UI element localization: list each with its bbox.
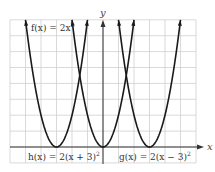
h-label-text: h(x) = 2(x + 3) [28,152,96,162]
f-label: f(x) = 2x2 [31,21,75,33]
y-axis-label: y [99,7,106,18]
x-axis-arrow-icon [197,145,204,150]
g-label-text: g(x) = 2(x − 3) [119,152,187,162]
h-label: h(x) = 2(x + 3)2 [28,150,100,162]
parabola-graph: x y f(x) = 2x2 h(x) = 2(x + 3)2 g(x) = 2… [0,0,215,172]
x-axis-label: x [207,141,213,152]
h-label-exponent: 2 [96,150,100,157]
f-label-exponent: 2 [71,21,75,28]
g-label-exponent: 2 [187,150,191,157]
g-label: g(x) = 2(x − 3)2 [119,150,191,162]
f-label-text: f(x) = 2x [31,23,71,33]
y-axis-arrow-icon [101,20,106,27]
